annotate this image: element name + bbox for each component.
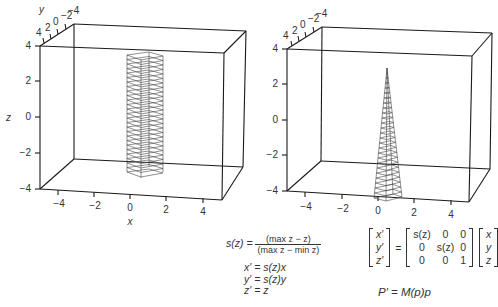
x-tick-label: 4 [200, 206, 206, 217]
box-edge [472, 33, 492, 56]
mesh-slice [378, 155, 397, 160]
box-edge [74, 24, 246, 31]
z-axis-label: z [5, 112, 11, 123]
scale-denominator: (max z − min z) [255, 245, 321, 255]
z-axis-ticks [35, 46, 40, 189]
matrix-entry: 0 [410, 254, 434, 267]
x-tick-label: 2 [163, 204, 169, 215]
mesh-slice [377, 170, 400, 176]
box-edge [287, 49, 472, 56]
box-edge [322, 27, 492, 33]
matrix-entry: 0 [434, 228, 458, 241]
z-tick-label: 0 [272, 114, 278, 125]
y-tick-label: 0 [53, 16, 59, 27]
vector-entry: z′ [376, 254, 383, 266]
mesh-slice [379, 146, 396, 150]
box-edge [243, 31, 246, 167]
z-axis-ticks [282, 49, 287, 191]
compact-equation: P′ = M(p)p [378, 286, 431, 298]
mesh-slice [386, 83, 389, 84]
matrix-entry: 0 [410, 241, 434, 254]
y-tick-label: 4 [283, 30, 289, 41]
transform-matrix: s(z)00 0s(z)0 001 [406, 228, 473, 267]
mesh-slice [381, 131, 395, 135]
box-edge [40, 189, 222, 200]
z-tick-label: 2 [25, 75, 31, 86]
scale-function-equation: s(z) = (max z − z) (max z − min z) [226, 234, 321, 255]
matrix-equation: x′ y′ z′ = s(z)00 0s(z)0 001 x y z [369, 228, 498, 267]
matrix-entry: 0 [434, 254, 458, 267]
box-edge [222, 53, 224, 200]
rhs-vector: x y z [479, 228, 498, 267]
mesh-slice [376, 175, 400, 181]
mesh-slice [127, 169, 163, 177]
x-axis-label: x [127, 216, 134, 227]
y-tick-label: −4 [68, 5, 80, 16]
mesh-slice [377, 165, 399, 170]
box-edge [222, 167, 243, 200]
mesh-slice [379, 150, 397, 155]
y-tick-label: −4 [316, 8, 328, 19]
x-tick-label: −4 [300, 201, 312, 212]
right-spike-mesh [374, 68, 402, 201]
y-prime-equation: y′ = s(z)y [244, 273, 286, 285]
x-tick-label: −4 [53, 198, 65, 209]
mesh-slice [385, 92, 390, 93]
z-tick-label: −4 [267, 185, 279, 196]
x-prime-equation: x′ = s(z)x [244, 261, 286, 273]
matrix-entry: s(z) [434, 241, 458, 254]
x-tick-label: 2 [411, 207, 417, 218]
z-tick-label: −2 [20, 147, 32, 158]
mesh-slice [376, 180, 401, 186]
box-edge [224, 31, 246, 53]
box-edge [321, 27, 322, 161]
equals-sign: = [395, 242, 401, 254]
z-tick-label: 4 [25, 40, 31, 51]
z-prime-equation: z′ = z [244, 284, 268, 296]
z-tick-label: −2 [267, 149, 279, 160]
z-tick-label: 2 [272, 78, 278, 89]
scale-fraction: (max z − z) (max z − min z) [255, 234, 321, 255]
z-tick-label: 0 [25, 111, 31, 122]
x-tick-label: 0 [127, 202, 133, 213]
mesh-slice [382, 117, 393, 120]
right-plot [282, 27, 492, 205]
matrix-entry: 1 [457, 254, 469, 267]
mesh-slice [383, 107, 392, 109]
mesh-slice [382, 121, 394, 124]
vector-entry: x [486, 228, 491, 240]
vector-entry: y′ [376, 241, 383, 253]
y-tick-label: 0 [300, 19, 306, 30]
mesh-slice [383, 112, 393, 114]
z-tick-label: −4 [20, 183, 32, 194]
mesh-slice [386, 78, 388, 79]
left-plot [35, 24, 246, 203]
scale-lhs: s(z) = [226, 237, 253, 249]
x-tick-label: −2 [337, 203, 349, 214]
matrix-entry: 0 [457, 241, 469, 254]
box-edge [40, 46, 224, 53]
y-tick-label: 2 [292, 25, 298, 36]
mesh-slice [380, 141, 396, 145]
z-tick-label: 4 [272, 43, 278, 54]
mesh-slice [384, 102, 392, 104]
component-equations: x′ = s(z)x y′ = s(z)y z′ = z [244, 262, 286, 297]
mesh-slice [381, 126, 394, 129]
box-edge [490, 33, 492, 169]
y-tick-label: 2 [45, 22, 51, 33]
vector-entry: x′ [376, 228, 383, 240]
mesh-slice [384, 97, 391, 99]
right-plot-labels: 4 2 0 −2 −4 −4 −2 0 2 4 4 2 0 −2 −4 [267, 8, 455, 220]
mesh-slice [375, 184, 401, 191]
x-tick-label: 4 [448, 209, 454, 220]
y-tick-label: 4 [36, 27, 42, 38]
box-edge [469, 56, 472, 202]
box-edge [469, 169, 490, 202]
box-edge [40, 159, 74, 189]
scale-numerator: (max z − z) [255, 234, 321, 245]
box-edge [287, 161, 321, 191]
matrix-entry: 0 [457, 228, 469, 241]
x-tick-label: −2 [89, 200, 101, 211]
left-plot-labels: 4 2 0 −2 −4 z −4 −2 0 2 4 x 4 2 0 −2 −4 … [5, 4, 206, 227]
lhs-vector: x′ y′ z′ [369, 228, 390, 267]
